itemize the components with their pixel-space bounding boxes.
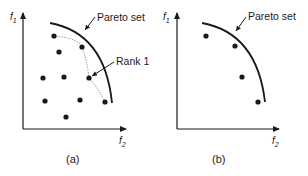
- pareto-diagram: f1 f2 Pareto set Rank 1 (a) f1 f2: [0, 0, 308, 176]
- pareto-curve: [202, 23, 265, 102]
- x-axis-label: f2: [272, 135, 279, 148]
- caption-b: (b): [212, 153, 225, 165]
- data-points: [40, 33, 107, 119]
- pareto-set-label: Pareto set: [97, 11, 145, 23]
- y-axis-label: f1: [163, 11, 170, 24]
- pareto-set-label: Pareto set: [248, 10, 296, 22]
- x-axis-label: f2: [119, 135, 126, 148]
- data-points: [203, 33, 260, 104]
- pareto-curve: [50, 23, 112, 103]
- y-axis-label: f1: [10, 11, 17, 24]
- panel-b: f1 f2 Pareto set (b): [163, 10, 296, 165]
- pareto-pointer: [85, 17, 95, 30]
- caption-a: (a): [66, 153, 79, 165]
- rank1-label: Rank 1: [116, 55, 149, 67]
- panel-a: f1 f2 Pareto set Rank 1 (a): [10, 11, 149, 165]
- pareto-pointer: [236, 17, 246, 31]
- rank1-dotted-boundary: [54, 36, 105, 102]
